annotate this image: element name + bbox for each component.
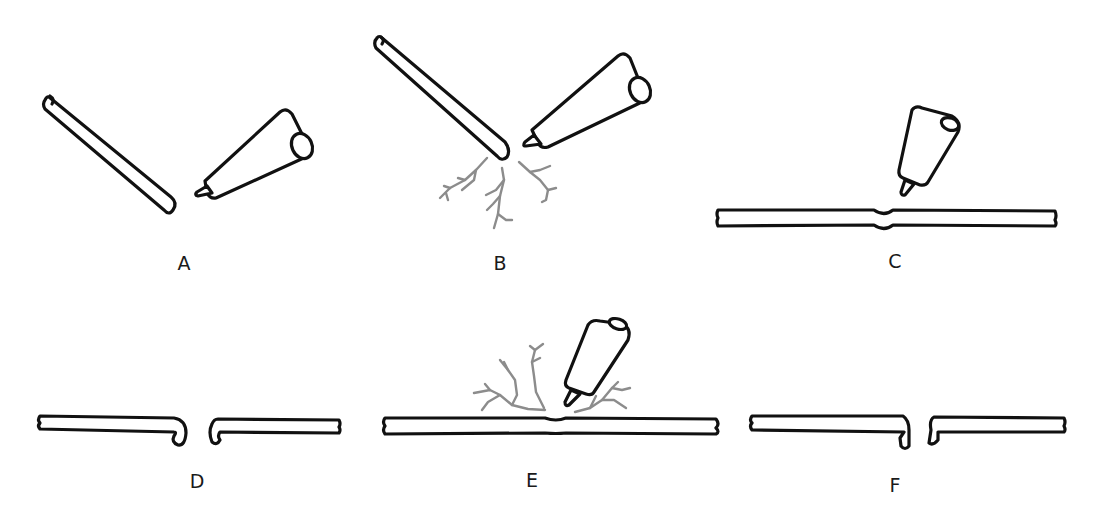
rod-left-squared [751,416,910,449]
rod-left-curled [39,416,187,445]
panel-b [375,37,655,229]
rod-angled [44,96,176,213]
panel-label-c: C [888,252,901,271]
electrode-cone [524,54,655,148]
panel-f [751,416,1066,449]
panel-label-e: E [526,471,538,490]
panel-label-b: B [493,254,506,273]
panel-a [44,96,317,213]
panel-label-f: F [890,476,901,495]
panel-d [39,416,341,445]
rod-horizontal-slight-dent [384,418,719,434]
rod-right-curled [210,419,340,444]
rod-angled [375,37,509,160]
rod-right-squared [929,417,1065,444]
electrode-cone [565,316,629,405]
panel-label-a: A [178,254,191,273]
electrode-cone [899,107,961,195]
diagram-canvas [0,0,1101,516]
panel-label-d: D [190,472,205,491]
sparks [440,158,556,228]
panel-e [384,316,719,434]
electrode-cone [196,110,317,198]
panel-c [717,107,1056,229]
rod-horizontal-dented [717,210,1056,229]
